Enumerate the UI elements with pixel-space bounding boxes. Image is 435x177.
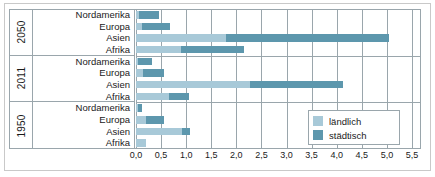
x-tick-label: 0,5 (155, 150, 168, 160)
legend-label-rural: ländlich (329, 116, 361, 127)
legend: ländlich städtisch (308, 110, 400, 145)
x-axis-tick-labels: 0,00,51,01,52,02,53,03,54,04,55,05,5 (136, 150, 426, 164)
x-tick-label: 1,0 (180, 150, 193, 160)
x-tick-label: 4,5 (356, 150, 369, 160)
x-tick-label: 1,5 (205, 150, 218, 160)
x-tick-label: 3,0 (280, 150, 293, 160)
x-tick-label: 2,0 (230, 150, 243, 160)
legend-item-urban[interactable]: städtisch (313, 128, 395, 142)
legend-item-rural[interactable]: ländlich (313, 114, 395, 128)
legend-swatch-urban-icon (313, 130, 323, 140)
x-tick-label: 5,5 (406, 150, 419, 160)
x-tick-label: 2,5 (255, 150, 268, 160)
legend-label-urban: städtisch (329, 130, 367, 141)
legend-swatch-rural-icon (313, 116, 323, 126)
x-tick-label: 4,0 (330, 150, 343, 160)
x-tick-label: 5,0 (381, 150, 394, 160)
chart-figure: 205020111950 NordamerikaEuropaAsienAfrik… (0, 0, 435, 177)
x-tick-label: 0,0 (130, 150, 143, 160)
x-tick-label: 3,5 (305, 150, 318, 160)
